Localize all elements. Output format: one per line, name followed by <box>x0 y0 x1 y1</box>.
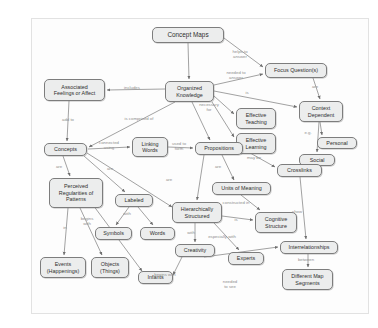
node-units-of-meaning[interactable]: Units of Meaning <box>212 182 271 195</box>
edge-label-with-labeled: with <box>123 212 131 217</box>
edge-label-is-comprised-of: is comprised of <box>125 117 154 122</box>
node-organized-knowledge[interactable]: Organized Knowledge <box>165 81 214 102</box>
node-effective-teaching[interactable]: Effective Teaching <box>236 108 276 129</box>
node-focus-questions[interactable]: Focus Question(s) <box>265 63 327 78</box>
edge-label-may-be: may be <box>247 156 261 161</box>
edge-label-are-labeled: are <box>107 167 113 172</box>
node-hierarchically-structured[interactable]: Hierarchically Structured <box>172 202 222 223</box>
edge-label-constructed-in: constructed in <box>223 201 250 206</box>
node-words[interactable]: Words <box>140 227 175 240</box>
edge-label-are-hierarchical: are <box>166 178 172 183</box>
edge-label-is-cognitive: is <box>234 218 237 223</box>
edge-label-add-to: add to <box>62 118 74 123</box>
edge-label-in: in <box>63 226 66 231</box>
node-creativity[interactable]: Creativity <box>175 244 215 257</box>
node-experts[interactable]: Experts <box>228 252 264 265</box>
node-labeled[interactable]: Labeled <box>115 194 153 207</box>
edge-label-between: between <box>298 258 314 263</box>
edge-label-begins-with-infants: begins with <box>154 273 176 278</box>
edge-label-is: is <box>245 91 248 96</box>
node-interrelationships[interactable]: Interrelationships <box>280 241 338 254</box>
edge-label-needed-to-see: needed to see <box>223 280 237 290</box>
edge-label-connected-using: connected using <box>99 141 119 151</box>
edge-label-necessary-for: necessary for <box>199 103 219 113</box>
node-associated-feelings-or-affect[interactable]: Associated Feelings or Affect <box>44 79 105 101</box>
node-perceived-regularities-of-patterns[interactable]: Perceived Regularities of Patterns <box>49 178 103 208</box>
edge-label-helps-to-answer: helps to answer <box>232 50 247 60</box>
edge-label-are-perceived: are <box>56 165 62 170</box>
edge-label-includes: includes <box>124 86 140 91</box>
node-cognitive-structure[interactable]: Cognitive Structure <box>255 212 297 233</box>
node-personal[interactable]: Personal <box>317 137 357 149</box>
node-concepts[interactable]: Concepts <box>44 143 87 156</box>
node-objects-things[interactable]: Objects (Things) <box>91 257 129 278</box>
node-concept-maps[interactable]: Concept Maps <box>152 27 224 43</box>
node-propositions[interactable]: Propositions <box>195 142 243 155</box>
node-events-happenings[interactable]: Events (Happenings) <box>40 257 86 278</box>
node-linking-words[interactable]: Linking Words <box>132 137 168 157</box>
edge-label-needed-to-answer: needed to answer <box>226 71 245 81</box>
node-different-map-segments[interactable]: Different Map Segments <box>282 269 333 290</box>
edge-label-are-context: are <box>312 85 318 90</box>
concept-map-figure: Courtesy of Joseph D. Novak and Alberto … <box>0 0 378 328</box>
edge-label-show: show <box>292 210 302 215</box>
diagram-canvas: Concept Maps Focus Question(s) Organized… <box>31 18 369 314</box>
edge-label-begins-with-objects: begins with <box>81 217 94 227</box>
edge-label-especially-with: especially with <box>208 235 236 240</box>
node-symbols[interactable]: Symbols <box>95 227 132 240</box>
edge-label-with-creativity: with <box>187 231 195 236</box>
edge-label-are-propositions: are <box>215 165 221 170</box>
edge-label-eg: e.g. <box>304 131 311 136</box>
node-crosslinks[interactable]: Crosslinks <box>277 164 322 177</box>
node-context-dependent[interactable]: Context Dependent <box>299 101 343 122</box>
edge-label-used-to-form: used to form <box>172 142 186 152</box>
